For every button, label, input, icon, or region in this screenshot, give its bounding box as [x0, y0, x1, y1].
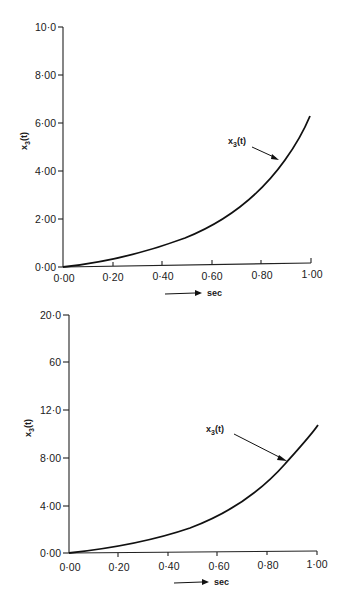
bottom-chart: 0·00 4·00 8·00 12·0 60 20·0 0·00 0·20 0·…: [23, 309, 328, 587]
bottom-y-tick-label: 60: [49, 356, 61, 368]
bottom-x-axis: [69, 551, 317, 553]
svg-text:x3(t): x3(t): [23, 419, 35, 437]
bottom-y-tick-label: 20·0: [40, 309, 61, 321]
bottom-x-ticks: 0·00 0·20 0·40 0·60 0·80 1·00: [59, 551, 327, 573]
top-x-tick-label: 0·20: [102, 271, 123, 283]
top-x-axis-label: sec: [165, 288, 222, 298]
top-curve-x3: [63, 116, 310, 267]
top-y-tick-label: 10·0: [35, 21, 56, 33]
bottom-x-tick-label: 0·00: [59, 561, 80, 573]
figure: 0·00 2·00 4·00 6·00 8·00 10·0 0·00 0·20 …: [0, 0, 353, 593]
bottom-y-tick-label: 0·00: [40, 547, 61, 559]
bottom-x-tick-label: 0·80: [257, 559, 278, 571]
bottom-x-tick-label: 0·20: [108, 561, 129, 573]
top-y-tick-label: 4·00: [35, 165, 56, 177]
bottom-y-tick-label: 12·0: [40, 404, 61, 416]
top-y-axis-label: x3(t): [19, 132, 31, 150]
bottom-curve-annotation: x3(t): [206, 424, 287, 461]
top-y-ticks: 0·00 2·00 4·00 6·00 8·00 10·0: [35, 21, 63, 273]
top-x-tick-label: 1·00: [301, 268, 322, 280]
top-y-tick-label: 8·00: [35, 69, 56, 81]
svg-text:sec: sec: [214, 577, 229, 587]
svg-text:x3(t): x3(t): [206, 424, 224, 436]
svg-text:x3(t): x3(t): [228, 136, 246, 148]
top-y-tick-label: 6·00: [35, 117, 56, 129]
top-x-tick-label: 0·40: [152, 270, 173, 282]
svg-text:x3(t): x3(t): [19, 132, 31, 150]
bottom-x-tick-label: 0·60: [208, 560, 229, 572]
bottom-x-tick-label: 1·00: [306, 558, 327, 570]
bottom-y-ticks: 0·00 4·00 8·00 12·0 60 20·0: [40, 309, 69, 559]
top-x-tick-label: 0·80: [251, 269, 272, 281]
svg-text:sec: sec: [207, 288, 222, 298]
top-chart: 0·00 2·00 4·00 6·00 8·00 10·0 0·00 0·20 …: [19, 21, 323, 298]
bottom-y-tick-label: 8·00: [40, 452, 61, 464]
top-y-tick-label: 2·00: [35, 213, 56, 225]
bottom-y-tick-label: 4·00: [40, 500, 61, 512]
top-x-tick-label: 0·60: [201, 270, 222, 282]
bottom-x-axis-label: sec: [174, 577, 229, 587]
top-x-axis: [63, 263, 311, 267]
bottom-y-axis-label: x3(t): [23, 419, 35, 437]
bottom-x-tick-label: 0·40: [158, 560, 179, 572]
top-curve-annotation: x3(t): [228, 136, 279, 160]
bottom-curve-x3: [69, 425, 318, 553]
top-x-tick-label: 0·00: [53, 272, 74, 284]
